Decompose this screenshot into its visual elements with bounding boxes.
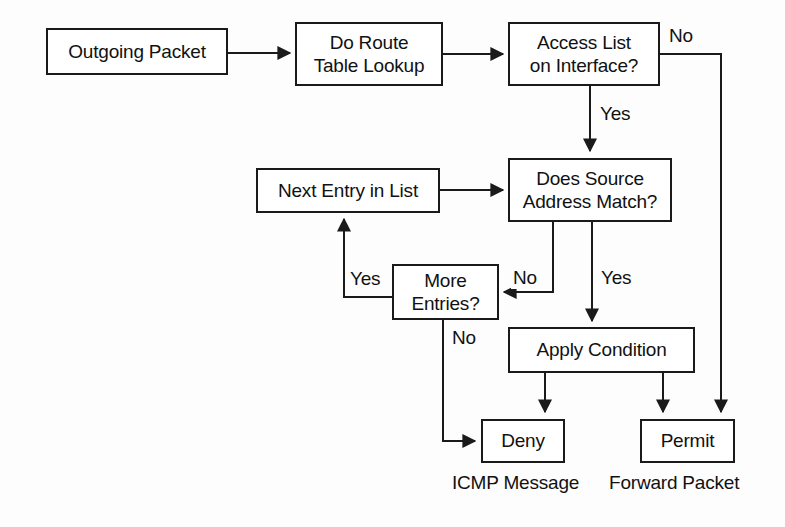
edge-label-access-list-no: No [667,25,695,47]
node-do-route-table-lookup[interactable]: Do Route Table Lookup [295,22,443,86]
node-access-list-on-interface[interactable]: Access List on Interface? [508,22,660,86]
node-deny[interactable]: Deny [481,419,565,463]
edge-label-more-entries-yes: Yes [348,268,382,290]
node-apply-condition[interactable]: Apply Condition [508,327,695,373]
node-outgoing-packet[interactable]: Outgoing Packet [46,28,228,75]
node-does-source-address-match[interactable]: Does Source Address Match? [508,158,672,222]
edge-label-source-match-yes: Yes [599,267,633,289]
caption-forward-packet: Forward Packet [609,472,739,494]
node-more-entries[interactable]: More Entries? [392,264,499,320]
edge-label-source-match-no: No [511,267,539,289]
node-next-entry-in-list[interactable]: Next Entry in List [256,168,440,213]
edge-label-more-entries-no: No [450,327,478,349]
caption-icmp-message: ICMP Message [452,472,579,494]
node-permit[interactable]: Permit [640,419,735,463]
flowchart-canvas: Outgoing Packet Do Route Table Lookup Ac… [0,0,785,527]
edge-label-access-list-yes: Yes [598,103,632,125]
